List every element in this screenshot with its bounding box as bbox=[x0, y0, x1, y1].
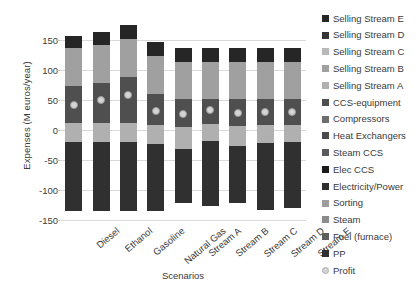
bar-segment bbox=[120, 39, 137, 77]
legend-item[interactable]: CCS-equipment bbox=[322, 94, 419, 111]
bar-segment bbox=[229, 146, 246, 204]
bar-segment bbox=[229, 48, 246, 62]
bar-segment bbox=[147, 125, 164, 144]
bar-segment bbox=[175, 127, 192, 149]
legend-item-label: Selling Stream D bbox=[333, 30, 404, 40]
legend-item-label: CCS-equipment bbox=[333, 98, 401, 108]
legend-item-label: Profit bbox=[333, 266, 355, 276]
bar-column[interactable] bbox=[202, 25, 219, 220]
legend-swatch-icon bbox=[322, 116, 329, 123]
legend-item-label: Selling Stream C bbox=[333, 47, 404, 57]
bar-segment bbox=[93, 142, 110, 211]
bar-column[interactable] bbox=[175, 25, 192, 220]
bar-column[interactable] bbox=[147, 25, 164, 220]
bar-segment bbox=[65, 36, 82, 49]
legend-swatch-icon bbox=[322, 48, 329, 55]
profit-marker bbox=[97, 96, 105, 104]
legend-swatch-icon bbox=[322, 200, 329, 207]
legend-item[interactable]: PP bbox=[322, 245, 419, 262]
profit-marker bbox=[206, 106, 214, 114]
y-axis-tick-label: 100 bbox=[24, 65, 58, 76]
y-axis-tick bbox=[56, 190, 60, 191]
legend-item[interactable]: Compressors bbox=[322, 111, 419, 128]
bar-column[interactable] bbox=[229, 25, 246, 220]
legend-item[interactable]: Selling Stream A bbox=[322, 77, 419, 94]
profit-marker bbox=[288, 108, 296, 116]
legend-item[interactable]: Elec CCS bbox=[322, 161, 419, 178]
bar-segment bbox=[120, 25, 137, 39]
bar-segment bbox=[229, 62, 246, 99]
plot-area bbox=[60, 25, 306, 220]
legend-item[interactable]: Sorting bbox=[322, 195, 419, 212]
bar-segment bbox=[175, 48, 192, 62]
legend-item-label: Selling Stream E bbox=[333, 14, 404, 24]
legend-swatch-icon bbox=[322, 166, 329, 173]
legend-swatch-icon bbox=[322, 99, 329, 106]
legend-swatch-icon bbox=[322, 149, 329, 156]
legend-dot-icon bbox=[322, 267, 329, 274]
profit-marker bbox=[70, 101, 78, 109]
y-axis-tick bbox=[56, 160, 60, 161]
legend-item[interactable]: Selling Stream B bbox=[322, 60, 419, 77]
bar-segment bbox=[93, 123, 110, 142]
legend-item-label: PP bbox=[333, 249, 346, 259]
bar-segment bbox=[147, 42, 164, 55]
bar-segment bbox=[257, 48, 274, 62]
bar-column[interactable] bbox=[257, 25, 274, 220]
bar-segment bbox=[147, 56, 164, 94]
profit-marker bbox=[261, 108, 269, 116]
legend-item-label: Heat Exchangers bbox=[333, 131, 406, 141]
bar-segment bbox=[284, 142, 301, 208]
y-axis-tick bbox=[56, 220, 60, 221]
profit-marker bbox=[152, 107, 160, 115]
bar-segment bbox=[257, 125, 274, 143]
legend-swatch-icon bbox=[322, 250, 329, 257]
bar-segment bbox=[93, 45, 110, 83]
legend-item[interactable]: Selling Stream D bbox=[322, 27, 419, 44]
legend-item-label: Electricity/Power bbox=[333, 182, 403, 192]
bar-segment bbox=[202, 62, 219, 99]
bar-column[interactable] bbox=[284, 25, 301, 220]
bar-segment bbox=[175, 62, 192, 99]
y-axis-tick-label: -100 bbox=[24, 185, 58, 196]
bar-segment bbox=[175, 149, 192, 203]
bar-segment bbox=[229, 126, 246, 146]
legend-item[interactable]: Fuel (furnace) bbox=[322, 228, 419, 245]
bar-segment bbox=[257, 143, 274, 210]
legend-item-label: Steam bbox=[333, 215, 360, 225]
bar-segment bbox=[120, 142, 137, 211]
y-axis-tick bbox=[56, 70, 60, 71]
y-axis-tick-label: -50 bbox=[24, 155, 58, 166]
x-axis-tick-label: Gasoline bbox=[151, 225, 187, 258]
legend-item[interactable]: Selling Stream E bbox=[322, 10, 419, 27]
bar-segment bbox=[202, 48, 219, 62]
legend-item-label: Sorting bbox=[333, 198, 363, 208]
legend-item-label: Fuel (furnace) bbox=[333, 232, 392, 242]
y-axis-tick bbox=[56, 100, 60, 101]
profit-marker bbox=[124, 91, 132, 99]
legend-swatch-icon bbox=[322, 65, 329, 72]
bar-segment bbox=[65, 123, 82, 142]
bar-column[interactable] bbox=[65, 25, 82, 220]
legend-item-label: Compressors bbox=[333, 114, 390, 124]
legend-swatch-icon bbox=[322, 183, 329, 190]
legend-item[interactable]: Selling Stream C bbox=[322, 44, 419, 61]
y-axis-tick-labels: 150100500-50-100-150 bbox=[20, 0, 58, 292]
legend-item[interactable]: Electricity/Power bbox=[322, 178, 419, 195]
bar-column[interactable] bbox=[93, 25, 110, 220]
legend-item[interactable]: Heat Exchangers bbox=[322, 128, 419, 145]
x-axis-tick-label: Ethanol bbox=[123, 225, 155, 254]
legend-item[interactable]: Steam bbox=[322, 212, 419, 229]
bar-segment bbox=[93, 32, 110, 45]
legend-swatch-icon bbox=[322, 15, 329, 22]
bar-column[interactable] bbox=[120, 25, 137, 220]
bar-segment bbox=[284, 48, 301, 62]
legend-item-label: Elec CCS bbox=[333, 165, 374, 175]
profit-marker bbox=[179, 110, 187, 118]
legend-swatch-icon bbox=[322, 32, 329, 39]
y-axis-tick bbox=[56, 40, 60, 41]
legend-item[interactable]: Profit bbox=[322, 262, 419, 279]
y-axis-tick bbox=[56, 130, 60, 131]
legend-item-label: Selling Stream A bbox=[333, 81, 403, 91]
legend-item[interactable]: Steam CCS bbox=[322, 144, 419, 161]
